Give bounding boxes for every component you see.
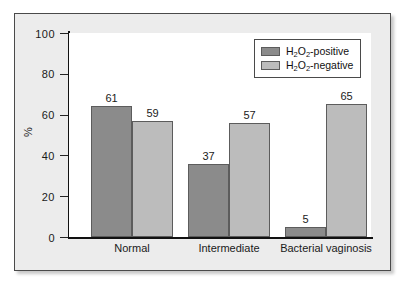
y-tick-label-40: 40	[42, 150, 55, 162]
x-category-label-normal: Normal	[114, 242, 149, 254]
legend-label-negative: H2O2-negative	[286, 59, 353, 71]
y-tick-label-20: 20	[42, 191, 55, 203]
light-gray-swatch-icon	[261, 61, 280, 70]
y-tick-0: 0	[60, 237, 68, 238]
dark-gray-swatch-icon	[261, 47, 280, 56]
y-tick-label-0: 0	[48, 232, 55, 244]
legend-item-negative: H2O2-negative	[261, 58, 353, 72]
bar-bacterial-vaginosis-negative: 65	[326, 104, 367, 237]
y-tick-80: 80	[60, 74, 68, 75]
y-tick-label-100: 100	[35, 28, 55, 40]
bar-bacterial-vaginosis-positive: 5	[285, 227, 326, 237]
bar-value-normal-positive: 61	[105, 92, 117, 104]
bar-normal-negative: 59	[132, 121, 173, 237]
bar-intermediate-negative: 57	[229, 123, 270, 237]
bar-value-normal-negative: 59	[146, 107, 158, 119]
y-tick-20: 20	[60, 196, 68, 197]
bar-intermediate-positive: 37	[188, 164, 229, 237]
y-axis-title: %	[22, 127, 34, 137]
y-tick-label-80: 80	[42, 68, 55, 80]
x-category-label-bacterial-vaginosis: Bacterial vaginosis	[280, 242, 372, 254]
y-tick-label-60: 60	[42, 109, 55, 121]
y-tick-100: 100	[60, 33, 68, 34]
bar-value-intermediate-negative: 57	[243, 109, 255, 121]
x-axis-line	[68, 237, 373, 239]
legend-item-positive: H2O2-positive	[261, 44, 353, 58]
legend: H2O2-positive H2O2-negative	[254, 39, 361, 78]
legend-label-positive: H2O2-positive	[286, 45, 349, 57]
bar-normal-positive: 61	[91, 106, 132, 237]
bar-value-bacterial-vaginosis-negative: 65	[340, 90, 352, 102]
y-tick-60: 60	[60, 115, 68, 116]
x-category-label-intermediate: Intermediate	[198, 242, 259, 254]
figure-panel: % 0 20 40 60 80 100 61 59 37 57 5	[14, 13, 391, 271]
y-tick-40: 40	[60, 155, 68, 156]
bar-value-intermediate-positive: 37	[202, 150, 214, 162]
bar-value-bacterial-vaginosis-positive: 5	[302, 213, 308, 225]
